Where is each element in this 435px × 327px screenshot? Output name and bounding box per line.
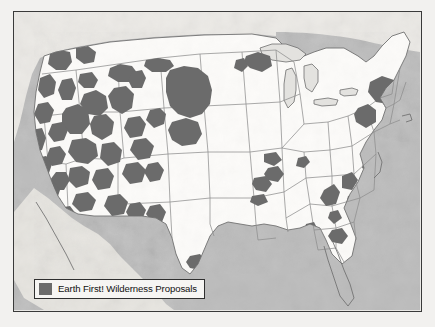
lake-michigan (284, 68, 296, 108)
legend-swatch-icon (39, 283, 52, 295)
united-states-map (14, 12, 420, 310)
map-frame: Earth First! Wilderness Proposals (13, 11, 422, 312)
wilderness-proposals-map-figure: Earth First! Wilderness Proposals (0, 0, 435, 327)
lake-ontario (340, 88, 358, 96)
map-legend: Earth First! Wilderness Proposals (34, 279, 205, 299)
lake-erie (314, 98, 338, 106)
legend-label: Earth First! Wilderness Proposals (58, 284, 197, 294)
